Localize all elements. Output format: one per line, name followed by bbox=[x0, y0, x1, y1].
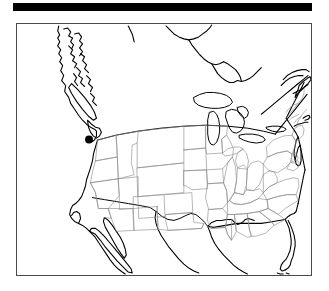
header-black-bar bbox=[13, 3, 312, 11]
us-map-svg bbox=[17, 24, 311, 275]
map-frame bbox=[16, 23, 312, 276]
locator-map-figure bbox=[0, 0, 329, 291]
